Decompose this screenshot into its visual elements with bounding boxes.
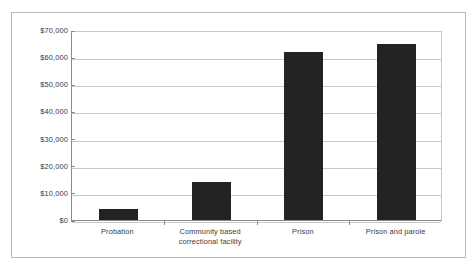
x-axis-tick-labels: ProbationCommunity basedcorrectional fac… — [71, 227, 442, 253]
x-axis-tick-label: Community basedcorrectional facility — [164, 227, 257, 246]
y-axis-tick-mark — [71, 85, 75, 86]
y-axis-tick-mark — [71, 31, 75, 32]
y-axis-tick-label: $10,000 — [8, 189, 68, 198]
y-axis-tick-label: $0 — [8, 216, 68, 225]
bar — [99, 209, 138, 220]
y-axis-tick-labels: $0$10,000$20,000$30,000$40,000$50,000$60… — [3, 31, 68, 221]
bar — [192, 182, 231, 220]
bar — [377, 44, 416, 220]
x-axis-tick-label: Prison and parole — [349, 227, 442, 237]
y-axis-tick-label: $20,000 — [8, 162, 68, 171]
x-axis-tick-mark — [349, 221, 350, 225]
y-axis-tick-label: $60,000 — [8, 53, 68, 62]
y-axis-tick-mark — [71, 166, 75, 167]
y-axis-tick-mark — [71, 193, 75, 194]
y-axis-tick-mark — [71, 112, 75, 113]
bar — [284, 52, 323, 220]
y-axis-tick-label: $40,000 — [8, 107, 68, 116]
y-axis-tick-label: $70,000 — [8, 26, 68, 35]
y-axis-tick-label: $50,000 — [8, 80, 68, 89]
plot-area — [71, 31, 442, 221]
x-axis-tick-mark — [257, 221, 258, 225]
y-axis-tick-mark — [71, 221, 75, 222]
x-axis-tick-marks — [71, 221, 442, 226]
x-axis-tick-mark — [164, 221, 165, 225]
x-axis-tick-label: Prison — [257, 227, 350, 237]
y-axis-tick-mark — [71, 139, 75, 140]
chart-figure: $0$10,000$20,000$30,000$40,000$50,000$60… — [0, 0, 476, 267]
x-axis-tick-label: Probation — [71, 227, 164, 237]
y-axis-tick-label: $30,000 — [8, 135, 68, 144]
y-axis-tick-mark — [71, 58, 75, 59]
